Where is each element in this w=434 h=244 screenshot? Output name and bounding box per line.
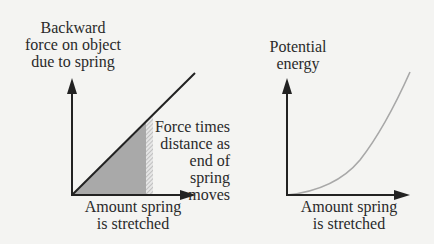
right-y-axis-arrow-icon bbox=[282, 78, 292, 94]
left-y-axis-arrow-icon bbox=[67, 78, 77, 94]
work-annotation: Force times distance as end of spring mo… bbox=[150, 118, 230, 203]
y-label-line: due to spring bbox=[18, 53, 128, 70]
left-x-axis-label: Amount spring is stretched bbox=[78, 198, 188, 232]
y-label-line: Potential bbox=[268, 38, 328, 55]
y-label-line: Backward bbox=[18, 19, 128, 36]
right-graph bbox=[282, 72, 410, 200]
left-y-axis-label: Backward force on object due to spring bbox=[18, 19, 128, 70]
annotation-line: end of spring bbox=[150, 152, 230, 186]
x-label-line: is stretched bbox=[78, 215, 188, 232]
x-label-line: Amount spring bbox=[78, 198, 188, 215]
y-label-line: energy bbox=[268, 55, 328, 72]
annotation-line: distance as bbox=[150, 135, 230, 152]
annotation-line: Force times bbox=[150, 118, 230, 135]
potential-energy-curve bbox=[287, 72, 410, 195]
right-y-axis-label: Potential energy bbox=[268, 38, 328, 72]
y-label-line: force on object bbox=[18, 36, 128, 53]
right-x-axis-label: Amount spring is stretched bbox=[294, 198, 404, 232]
x-label-line: is stretched bbox=[294, 215, 404, 232]
x-label-line: Amount spring bbox=[294, 198, 404, 215]
